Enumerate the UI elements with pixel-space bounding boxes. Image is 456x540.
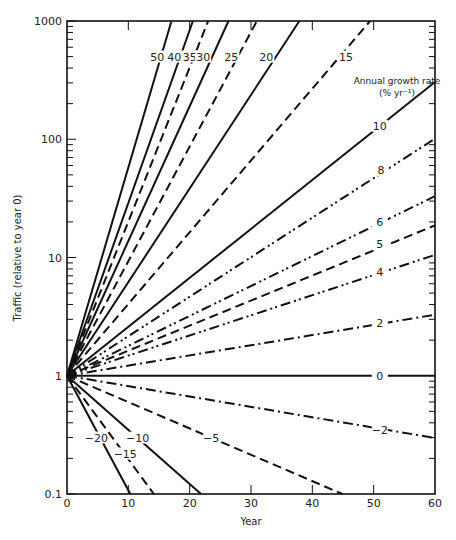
x-tick-label: 10 [121,497,135,510]
series-label: 5 [376,238,383,251]
x-tick-label: 20 [183,497,197,510]
series-label: −20 [85,432,108,445]
y-tick-label: 100 [41,133,62,146]
x-tick-label: 40 [305,497,319,510]
series-label: 6 [376,216,383,229]
y-tick-label: 10 [48,252,62,265]
x-axis-label: Year [239,516,262,527]
y-tick-label: 1000 [34,15,62,28]
x-tick-label: 30 [244,497,258,510]
series-label: 8 [378,164,385,177]
series-label: −5 [203,432,219,445]
series-label: 50 [150,51,164,64]
series-label: 4 [376,266,383,279]
series-line-30 [67,21,228,376]
x-tick-label: 60 [428,497,442,510]
x-tick-label: 50 [367,497,381,510]
series-label: 0 [376,370,383,383]
series-label: −2 [372,424,388,437]
series-label: 15 [339,51,353,64]
series-line-20 [67,21,299,376]
series-label: −10 [126,432,149,445]
y-tick-label: 0.1 [45,488,63,501]
series-label: −15 [114,448,137,461]
series-label: 25 [224,51,238,64]
legend-title: Annual growth rate [354,76,441,86]
y-axis-label: Traffic (relative to year 0) [12,194,23,322]
series-label: 35 [183,51,197,64]
x-tick-label: 0 [64,497,71,510]
series-label: 30 [196,51,210,64]
series-label: 40 [167,51,181,64]
series-labels: 5040353025201510865420−2−5−10−15−20 [85,51,389,461]
series-label: 2 [376,317,383,330]
series-line-50 [67,21,171,376]
series-label: 10 [373,120,387,133]
series-label: 20 [259,51,273,64]
legend-subtitle: (% yr⁻¹) [379,88,415,98]
growth-rate-chart: 01020304050600.11101001000 5040353025201… [0,0,456,540]
series-line-35 [67,21,208,376]
series-line-15 [67,21,370,376]
y-tick-label: 1 [55,370,62,383]
